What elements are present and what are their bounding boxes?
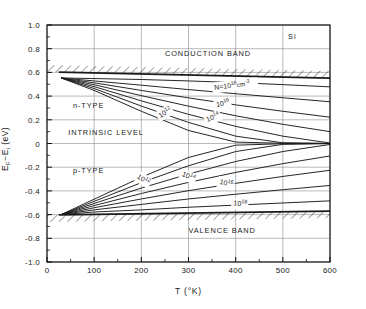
y-tick-label: 0.8 — [28, 45, 40, 54]
n-type-label: n-TYPE — [73, 101, 104, 110]
y-tick-label: -0.4 — [25, 187, 40, 196]
y-axis-label-ei: E — [0, 149, 10, 155]
fermi-level-chart: 1.00.80.60.40.20-0.2-0.4-0.6-0.8-1.00100… — [0, 0, 366, 309]
y-axis-label-ef: E — [0, 165, 10, 171]
y-axis-label-ef-sub: F — [4, 161, 11, 165]
x-tick-label: 600 — [323, 266, 337, 275]
chart-background — [0, 0, 366, 309]
y-axis-label-dash: − — [0, 155, 10, 160]
x-tick-label: 200 — [134, 266, 148, 275]
y-tick-label: -0.8 — [25, 234, 40, 243]
x-tick-label: 300 — [181, 266, 195, 275]
conduction-band-label: CONDUCTION BAND — [165, 49, 251, 58]
intrinsic-level-label: INTRINSIC LEVEL — [68, 128, 144, 137]
y-tick-label: 0 — [35, 140, 40, 149]
x-tick-label: 0 — [45, 266, 50, 275]
figure-container: EF−Ei (eV) 1.00.80.60.40.20-0.2-0.4-0.6-… — [0, 0, 366, 309]
p-type-label: p-TYPE — [73, 166, 104, 175]
x-axis-label-group: T (°K) — [175, 286, 202, 296]
material-label: Si — [288, 32, 296, 41]
curve-label-p-1e18: 1018 — [231, 197, 249, 210]
valence-band-label: VALENCE BAND — [189, 226, 256, 235]
y-axis-label-units: (eV) — [0, 127, 10, 147]
x-axis-label: T (°K) — [175, 286, 202, 296]
y-axis-label: EF−Ei (eV) — [0, 89, 18, 209]
y-tick-label: 0.6 — [28, 68, 40, 77]
x-tick-label: 100 — [87, 266, 101, 275]
y-tick-label: 0.4 — [28, 92, 40, 101]
y-tick-label: 0.2 — [28, 116, 40, 125]
y-axis-label-wrapper: EF−Ei (eV) — [0, 92, 18, 212]
y-tick-label: -0.2 — [25, 163, 40, 172]
y-tick-label: -0.6 — [25, 211, 40, 220]
y-axis-label-ei-sub: i — [4, 147, 11, 149]
y-tick-label: 1.0 — [28, 21, 40, 30]
x-tick-label: 400 — [229, 266, 243, 275]
x-tick-label: 500 — [276, 266, 290, 275]
y-tick-label: -1.0 — [25, 258, 40, 267]
